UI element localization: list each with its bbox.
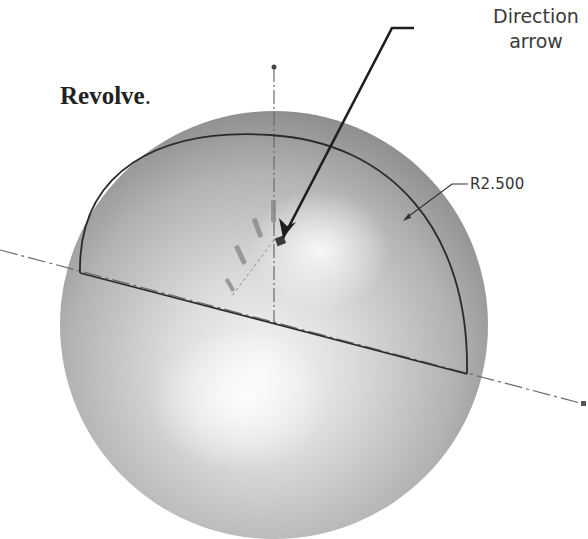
sphere-drawing <box>0 0 588 539</box>
caption: Revolve. <box>60 82 151 110</box>
centerline-endpoint-top <box>272 65 277 70</box>
revolve-diagram: Revolve. Direction arrow R2.500 <box>0 0 588 539</box>
caption-revolve-keyword: Revolve <box>60 82 145 109</box>
callout-line-1: Direction <box>486 4 586 29</box>
radius-dimension-label[interactable]: R2.500 <box>470 175 525 193</box>
caption-period: . <box>145 82 151 109</box>
axis-endpoint-right <box>581 401 586 406</box>
callout-line-2: arrow <box>486 29 586 54</box>
direction-arrow-callout: Direction arrow <box>486 4 586 54</box>
sphere-highlight-lower <box>150 330 330 470</box>
